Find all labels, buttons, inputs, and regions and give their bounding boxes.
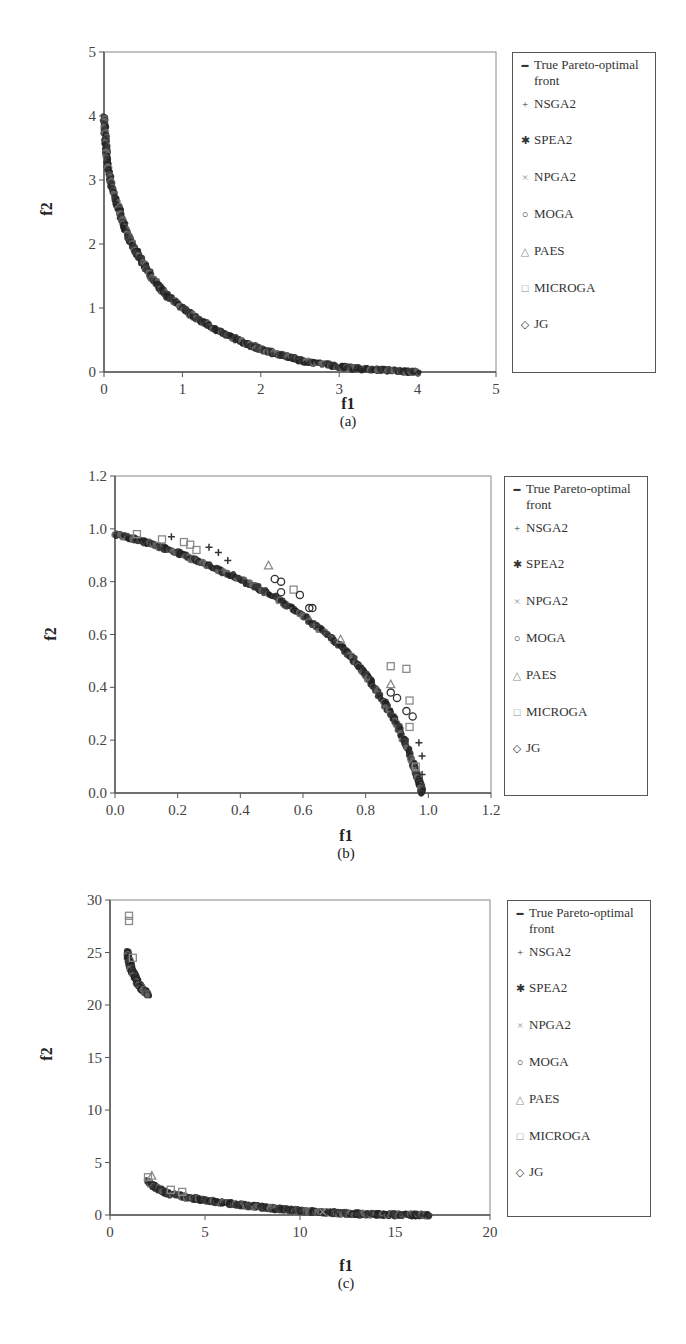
- legend-label: PAES: [526, 1091, 560, 1107]
- legend-item-jg: ◇JG: [514, 1164, 646, 1180]
- subfigure-label-c: (c): [338, 1275, 355, 1292]
- legend-label: True Pareto-optimal front: [526, 905, 646, 937]
- microga-point: [126, 912, 133, 919]
- legend-item-spea2: ✱SPEA2: [514, 980, 646, 996]
- x-tick-label: 0: [106, 1224, 114, 1240]
- legend-item-microga: □MICROGA: [514, 1128, 646, 1144]
- y-tick-label: 15: [87, 1050, 102, 1066]
- y-tick-label: 30: [87, 892, 102, 908]
- legend-c: ▬True Pareto-optimal front+NSGA2✱SPEA2×N…: [507, 900, 651, 1217]
- chart-panel-c: 05101520051015202530 f2 f1 (c) ▬True Par…: [0, 0, 686, 1344]
- star-marker-icon: ✱: [514, 980, 526, 996]
- y-tick-label: 10: [87, 1102, 102, 1118]
- x-tick-label: 10: [293, 1224, 308, 1240]
- legend-label: SPEA2: [526, 980, 567, 996]
- plus-marker-icon: +: [514, 944, 526, 960]
- legend-item-nsga2: +NSGA2: [514, 944, 646, 960]
- cross-marker-icon: ×: [514, 1017, 526, 1033]
- y-tick-label: 20: [87, 997, 102, 1013]
- square-marker-icon: □: [514, 1128, 526, 1144]
- x-tick-label: 20: [483, 1224, 498, 1240]
- x-tick-label: 5: [201, 1224, 209, 1240]
- legend-item-npga2: ×NPGA2: [514, 1017, 646, 1033]
- legend-item-paes: △PAES: [514, 1091, 646, 1107]
- microga-point: [126, 918, 133, 925]
- plot-frame: [110, 900, 490, 1215]
- x-axis-title-c: f1: [339, 1257, 352, 1275]
- y-tick-label: 5: [95, 1155, 103, 1171]
- legend-label: MICROGA: [526, 1128, 590, 1144]
- circle-marker-icon: ○: [514, 1054, 526, 1070]
- pareto-front-points: [123, 948, 432, 1220]
- legend-item-true-pareto-optimal-front: ▬True Pareto-optimal front: [514, 905, 646, 937]
- y-axis-title-c: f2: [38, 1047, 56, 1060]
- y-tick-label: 25: [87, 945, 102, 961]
- legend-label: NSGA2: [526, 944, 571, 960]
- legend-label: NPGA2: [526, 1017, 571, 1033]
- algorithm-outlier-points: [126, 912, 326, 1215]
- legend-label: MOGA: [526, 1054, 569, 1070]
- legend-label: JG: [526, 1164, 543, 1180]
- y-tick-label: 0: [95, 1207, 103, 1223]
- diamond-marker-icon: ◇: [514, 1164, 526, 1180]
- legend-item-moga: ○MOGA: [514, 1054, 646, 1070]
- x-tick-label: 15: [388, 1224, 403, 1240]
- dash-marker-icon: ▬: [514, 905, 526, 921]
- triangle-marker-icon: △: [514, 1091, 526, 1107]
